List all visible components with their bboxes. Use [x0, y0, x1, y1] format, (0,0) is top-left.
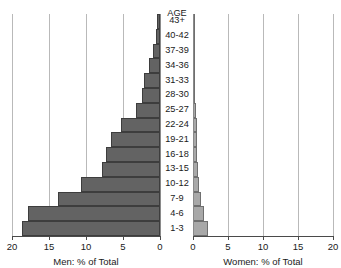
men-axis-label-15: 15: [44, 241, 55, 252]
bar-women-7-9: [193, 192, 201, 207]
age-label-25-27: 25-27: [161, 104, 193, 114]
men-tick-20: [12, 236, 13, 240]
bar-men-1-3: [22, 221, 160, 236]
women-axis-label-10: 10: [258, 241, 269, 252]
bar-men-7-9: [58, 192, 160, 207]
women-gridline-20: [333, 14, 334, 236]
bar-men-19-21: [111, 132, 160, 147]
women-plot-area: [193, 14, 333, 236]
age-label-31-33: 31-33: [161, 75, 193, 85]
population-pyramid-chart: AGE 1-34-67-910-1213-1516-1819-2122-2425…: [0, 0, 341, 268]
men-axis-label-0: 0: [157, 241, 162, 252]
age-label-19-21: 19-21: [161, 134, 193, 144]
women-tick-0: [193, 236, 194, 240]
age-label-4-6: 4-6: [161, 208, 193, 218]
men-tick-10: [86, 236, 87, 240]
bar-men-37-39: [153, 44, 160, 59]
women-gridline-15: [298, 14, 299, 236]
bar-men-10-12: [81, 177, 160, 192]
men-gridline-20: [12, 14, 13, 236]
bar-men-25-27: [136, 103, 160, 118]
bar-men-28-30: [142, 88, 160, 103]
men-tick-15: [49, 236, 50, 240]
women-tick-20: [333, 236, 334, 240]
age-label-13-15: 13-15: [161, 163, 193, 173]
age-label-28-30: 28-30: [161, 89, 193, 99]
men-axis-label-10: 10: [81, 241, 92, 252]
bar-men-34-36: [149, 58, 160, 73]
men-axis-label-20: 20: [7, 241, 18, 252]
women-gridline-10: [263, 14, 264, 236]
women-axis-label-20: 20: [328, 241, 339, 252]
age-label-1-3: 1-3: [161, 223, 193, 233]
age-label-43+: 43+: [161, 15, 193, 25]
age-label-16-18: 16-18: [161, 149, 193, 159]
men-axis-label-5: 5: [120, 241, 125, 252]
men-tick-0: [160, 236, 161, 240]
men-zero-spine: [160, 14, 161, 236]
women-tick-15: [298, 236, 299, 240]
women-gridline-5: [228, 14, 229, 236]
age-label-22-24: 22-24: [161, 119, 193, 129]
women-zero-spine: [193, 14, 194, 236]
age-category-column: AGE 1-34-67-910-1213-1516-1819-2122-2425…: [161, 8, 193, 238]
men-axis-caption: Men: % of Total: [53, 256, 118, 267]
age-label-10-12: 10-12: [161, 178, 193, 188]
bar-men-4-6: [28, 206, 160, 221]
age-label-34-36: 34-36: [161, 60, 193, 70]
bar-men-31-33: [144, 73, 160, 88]
bar-men-22-24: [121, 118, 160, 133]
bar-women-4-6: [193, 206, 204, 221]
bar-men-13-15: [102, 162, 160, 177]
bar-women-1-3: [193, 221, 208, 236]
women-tick-5: [228, 236, 229, 240]
men-tick-5: [123, 236, 124, 240]
women-axis-caption: Women: % of Total: [223, 256, 302, 267]
women-axis-label-0: 0: [190, 241, 195, 252]
men-gridline-15: [49, 14, 50, 236]
women-axis-label-15: 15: [293, 241, 304, 252]
age-label-7-9: 7-9: [161, 193, 193, 203]
women-tick-10: [263, 236, 264, 240]
bar-men-16-18: [106, 147, 160, 162]
women-axis-label-5: 5: [225, 241, 230, 252]
age-label-40-42: 40-42: [161, 30, 193, 40]
age-label-37-39: 37-39: [161, 45, 193, 55]
